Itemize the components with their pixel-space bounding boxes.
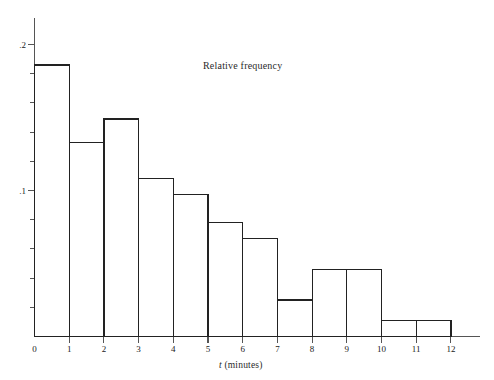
histogram-bar	[104, 119, 139, 337]
x-axis-title: t (minutes)	[219, 360, 263, 370]
x-tick-label: 6	[240, 344, 245, 354]
histogram-bar	[243, 239, 278, 337]
x-tick-label: 1	[67, 344, 72, 354]
x-tick-label: 12	[446, 344, 455, 354]
x-tick-label: 0	[32, 344, 37, 354]
histogram-bar	[416, 320, 451, 336]
x-tick-label: 4	[171, 344, 176, 354]
histogram-bar	[69, 142, 104, 336]
histogram-bar	[173, 195, 208, 337]
x-tick-label: 2	[102, 344, 107, 354]
x-tick-label: 9	[345, 344, 350, 354]
histogram-bar	[35, 65, 70, 337]
chart-title: Relative frequency	[203, 60, 282, 71]
x-tick-label: 11	[412, 344, 421, 354]
x-tick-label: 3	[136, 344, 141, 354]
x-tick-label: 10	[377, 344, 386, 354]
histogram-bar	[382, 320, 417, 336]
histogram-bar	[139, 179, 174, 337]
histogram-bar	[347, 269, 382, 336]
bars-group	[35, 65, 451, 337]
histogram-bar	[208, 223, 243, 337]
y-tick-label: .2	[8, 40, 26, 50]
y-tick-label: .1	[8, 186, 26, 196]
histogram-bar	[312, 269, 347, 336]
x-tick-label: 7	[275, 344, 280, 354]
x-tick-label: 5	[206, 344, 211, 354]
histogram-bar	[277, 300, 312, 337]
x-axis-unit: (minutes)	[224, 360, 262, 370]
x-tick-label: 8	[310, 344, 315, 354]
histogram-plot	[0, 0, 494, 380]
x-axis-variable: t	[219, 360, 222, 370]
histogram-figure: Relative frequency t (minutes) 012345678…	[0, 0, 494, 380]
